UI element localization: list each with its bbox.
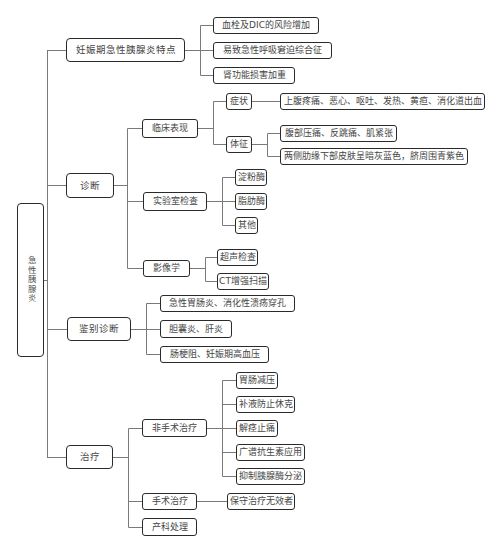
branch-diagnosis: 诊断 — [66, 173, 114, 198]
differential-cholecystitis: 胆囊炎、肝炎 — [160, 320, 232, 338]
nonsurgical-enzyme-inhibition: 抑制胰腺酶分泌 — [236, 468, 305, 485]
surgical-indication: 保守治疗无效者 — [227, 493, 295, 510]
differential-obstruction: 肠梗阻、妊娠期高血压 — [160, 346, 269, 363]
branch-treatment: 治疗 — [66, 445, 113, 469]
diagnosis-imaging: 影像学 — [143, 260, 190, 277]
nonsurgical-analgesia: 解痉止痛 — [236, 420, 278, 437]
feature-ards: 易致急性呼吸窘迫综合征 — [213, 42, 332, 59]
lab-lipase: 脂肪酶 — [235, 193, 267, 210]
differential-connectors — [131, 304, 160, 355]
nonsurgical-connectors — [207, 381, 236, 477]
sign-connectors — [252, 134, 280, 157]
signs-abdominal: 腹部压痛、反跳痛、肌紧张 — [280, 125, 397, 142]
nonsurgical-fluids: 补液防止休克 — [236, 396, 295, 413]
nonsurgical-antibiotics: 广谱抗生素应用 — [236, 444, 305, 461]
root-node: 急性胰腺炎 — [17, 203, 44, 357]
imaging-connectors — [190, 258, 217, 282]
clinical-symptoms: 症状 — [226, 93, 252, 110]
imaging-ct: CT增强扫描 — [217, 273, 269, 290]
branch-differential: 鉴别诊断 — [67, 317, 131, 341]
treatment-connectors — [113, 429, 142, 528]
treatment-obstetric: 产科处理 — [142, 518, 197, 536]
clinical-signs: 体征 — [226, 136, 252, 153]
branch-pregnancy-features: 妊娠期急性胰腺炎特点 — [66, 38, 185, 62]
signs-skin: 两侧肋缘下部皮肤呈暗灰蓝色，脐周围青紫色 — [280, 148, 468, 165]
diagnosis-clinical: 临床表现 — [142, 119, 198, 138]
mind-map: 急性胰腺炎 妊娠期急性胰腺炎特点 血栓及DIC的风险增加 易致急性呼吸窘迫综合征… — [0, 0, 502, 548]
nonsurgical-decompression: 胃肠减压 — [236, 372, 278, 389]
diagnosis-connectors — [114, 129, 143, 269]
lab-other: 其他 — [235, 217, 258, 234]
feature-renal-damage: 肾功能损害加重 — [213, 67, 295, 84]
lab-connectors — [207, 178, 235, 226]
trunk-line — [44, 50, 48, 458]
lab-amylase: 淀粉酶 — [235, 169, 267, 186]
treatment-nonsurgical: 非手术治疗 — [142, 419, 207, 437]
treatment-surgical: 手术治疗 — [142, 493, 197, 510]
trunk-to-branch-lines — [48, 51, 68, 458]
feature-thrombosis-dic: 血栓及DIC的风险增加 — [213, 17, 319, 34]
features-connectors — [185, 26, 213, 76]
diagnosis-lab: 实验室检查 — [143, 192, 207, 211]
clinical-connectors — [198, 102, 226, 145]
differential-gastroenteritis: 急性胃肠炎、消化性溃疡穿孔 — [160, 295, 295, 312]
symptoms-detail: 上腹疼痛、恶心、呕吐、发热、黄疸、消化道出血 — [280, 93, 485, 110]
imaging-ultrasound: 超声检查 — [217, 249, 258, 266]
